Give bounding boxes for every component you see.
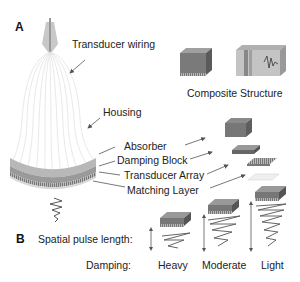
panel-b-letter: B bbox=[16, 232, 25, 246]
light-block bbox=[255, 186, 286, 201]
moderate-block bbox=[208, 199, 239, 214]
matching-layer-block bbox=[248, 174, 279, 180]
light-pulse bbox=[256, 204, 286, 246]
transducer-wires bbox=[10, 52, 96, 178]
label-composite-structure: Composite Structure bbox=[187, 87, 283, 99]
composite-cube bbox=[180, 48, 212, 76]
label-light: Light bbox=[261, 259, 284, 271]
label-moderate: Moderate bbox=[202, 259, 246, 271]
connector-icon bbox=[42, 18, 58, 52]
label-heavy: Heavy bbox=[158, 259, 188, 271]
transducer-array-block bbox=[247, 158, 277, 166]
label-damping-block: Damping Block bbox=[117, 154, 188, 166]
panel-a-letter: A bbox=[15, 20, 24, 34]
label-matching-layer: Matching Layer bbox=[127, 184, 199, 196]
heavy-pulse bbox=[162, 233, 190, 248]
label-housing: Housing bbox=[103, 106, 142, 118]
label-absorber: Absorber bbox=[124, 140, 167, 152]
pulse-wave-icon bbox=[50, 198, 62, 222]
absorber-block bbox=[225, 118, 252, 137]
transducer-layers bbox=[10, 158, 96, 189]
composite-cutaway bbox=[236, 45, 286, 76]
heavy-block bbox=[160, 212, 191, 227]
label-transducer-array: Transducer Array bbox=[124, 169, 204, 181]
label-damping: Damping: bbox=[86, 259, 131, 271]
label-spatial-pulse-length: Spatial pulse length: bbox=[38, 233, 133, 245]
damping-block bbox=[232, 145, 260, 154]
label-transducer-wiring: Transducer wiring bbox=[72, 38, 155, 50]
moderate-pulse bbox=[208, 216, 240, 246]
